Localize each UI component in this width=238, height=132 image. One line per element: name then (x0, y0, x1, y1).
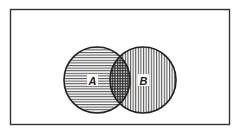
set-b-label: B (140, 75, 148, 87)
set-a-label: A (88, 75, 97, 87)
venn-diagram: A B (0, 0, 238, 132)
